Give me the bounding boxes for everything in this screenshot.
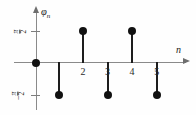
y-tick-label-positive: π 2 <box>12 21 27 43</box>
x-axis-label: n <box>176 44 181 55</box>
fraction-neg-pi-over-2: π 2 <box>10 92 25 96</box>
y-tick-label-negative: – π 2 <box>10 83 25 109</box>
fraction-denominator: 2 <box>20 30 28 34</box>
data-point-n5 <box>153 91 161 99</box>
fraction-numerator: π <box>12 30 19 34</box>
y-axis-arrow-icon <box>33 6 39 13</box>
stem-n2 <box>82 31 84 63</box>
stem-n4 <box>131 31 133 63</box>
data-point-n3 <box>104 91 112 99</box>
x-axis-arrow-icon <box>183 58 190 64</box>
data-point-n2 <box>79 27 87 35</box>
x-tick-label-5: 5 <box>150 66 164 77</box>
y-tick-positive <box>31 31 40 32</box>
fraction-numerator: π <box>10 92 17 96</box>
y-axis-label-subscript: n <box>47 12 51 20</box>
data-point-n0 <box>32 59 40 67</box>
fraction-denominator: 2 <box>18 92 26 96</box>
y-tick-negative <box>31 95 40 96</box>
fraction-pi-over-2: π 2 <box>12 30 27 34</box>
minus-sign: – <box>14 95 22 99</box>
data-point-n1 <box>55 91 63 99</box>
x-tick-label-2: 2 <box>76 66 90 77</box>
data-point-n4 <box>128 27 136 35</box>
y-axis-label: φn <box>41 6 50 20</box>
phase-spectrum-plot: n φn π 2 – π 2 2 3 4 5 <box>0 0 196 115</box>
x-tick-label-3: 3 <box>101 66 115 77</box>
x-tick-label-4: 4 <box>125 66 139 77</box>
